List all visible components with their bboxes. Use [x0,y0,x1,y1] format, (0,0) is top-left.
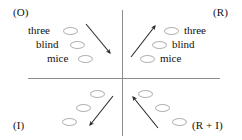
quadrant-label-top-left: (O) [13,6,29,18]
quadrant-label-bottom-right: (R + I) [192,119,223,131]
word-label: blind [36,38,59,50]
horizontal-axis-line [28,78,220,79]
ellipse-marker [90,90,105,98]
quadrant-diagram: (O) (R) (I) (R + I) three blind mice thr… [0,0,242,140]
word-label: mice [160,52,181,64]
quadrant-label-top-right: (R) [213,6,228,18]
ellipse-marker [152,41,167,49]
arrow-bottom-right-inward-icon [133,97,158,128]
word-label: blind [172,38,195,50]
ellipse-marker [62,118,77,126]
word-label: mice [47,52,68,64]
ellipse-marker [63,27,78,35]
word-label: three [184,24,206,36]
ellipse-marker [140,55,155,63]
ellipse-marker [78,55,93,63]
ellipse-marker [172,118,187,126]
word-label: three [28,24,50,36]
ellipse-marker [76,104,91,112]
arrow-bottom-left-outward-icon [90,96,113,125]
arrow-top-right-outward-icon [131,26,155,57]
ellipse-marker [70,41,85,49]
quadrant-label-bottom-left: (I) [13,119,24,131]
ellipse-marker [164,27,179,35]
ellipse-marker [155,104,170,112]
arrow-top-left-inward-icon [86,24,110,53]
vertical-axis-line [122,10,123,136]
ellipse-marker [138,90,153,98]
